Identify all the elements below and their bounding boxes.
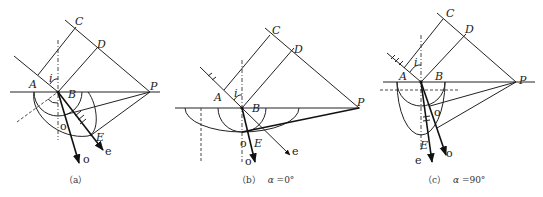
caption-c: （c） α =90° [423, 175, 485, 185]
label-e: E [95, 131, 104, 144]
label-e-ray: e [415, 154, 422, 167]
caption-a: （a） [64, 175, 87, 185]
ray-ac [38, 27, 76, 75]
caption-c-var: α [453, 175, 459, 185]
label-o-ray: o [83, 153, 90, 166]
svg-text:（b） α =0°: （b） α =0° [237, 175, 294, 185]
label-i: i [49, 72, 53, 85]
point-b [56, 90, 59, 93]
label-e-ray: e [105, 145, 112, 158]
tick-mark [208, 73, 212, 76]
huygens-construction-figure: A B C D E P i o o e （a） [0, 0, 543, 197]
svg-text:（c） α =90°: （c） α =90° [423, 175, 485, 185]
label-a: A [213, 91, 222, 104]
panel-b: A B C D E P i o o e （b） α =0° [175, 24, 365, 185]
o-ray [242, 108, 255, 162]
caption-b-value: =0° [277, 175, 295, 185]
tick-mark [78, 115, 84, 120]
panel-c: A B C D E P i o o e （c） α =90° [380, 7, 535, 185]
label-d: D [96, 38, 106, 51]
label-o-point: o [240, 137, 247, 150]
caption-b: （b） α =0° [237, 175, 294, 185]
ray-bd [58, 48, 97, 92]
label-o-point: o [434, 106, 441, 119]
ray-bd [421, 34, 466, 82]
label-e: E [419, 139, 428, 152]
label-c: C [446, 7, 455, 20]
label-i: i [414, 56, 418, 69]
caption-c-prefix: （c） [423, 175, 446, 185]
label-c: C [272, 24, 281, 37]
panel-a: A B C D E P i o o e （a） [10, 15, 160, 185]
caption-b-var: α [268, 175, 274, 185]
label-i: i [234, 87, 238, 100]
wavefront-cp [65, 20, 150, 92]
label-p: P [518, 74, 527, 87]
label-o-ray: o [245, 155, 252, 168]
label-d: D [293, 43, 303, 56]
tick-mark [423, 116, 430, 117]
label-b: B [434, 70, 443, 83]
label-d: D [464, 23, 474, 36]
label-b: B [251, 102, 260, 115]
label-e-ray: e [292, 145, 299, 158]
label-e: E [253, 137, 262, 150]
label-o-point: o [60, 120, 67, 133]
label-a: A [28, 78, 37, 91]
point-b [419, 80, 422, 83]
point-b [240, 106, 243, 109]
label-p: P [356, 96, 365, 109]
label-c: C [75, 15, 84, 28]
label-o-ray: o [446, 147, 453, 160]
e-tangent [437, 82, 516, 128]
tick-mark [212, 77, 216, 80]
angle-arc-lower [48, 99, 58, 103]
caption-c-value: =90° [462, 175, 486, 185]
e-tangent [90, 92, 150, 136]
ray-ac [404, 19, 443, 68]
wavefront-cp [265, 28, 359, 108]
wavefront-cp [437, 13, 516, 82]
caption-b-prefix: （b） [237, 175, 261, 185]
o-tangent [64, 92, 150, 115]
label-a: A [398, 70, 407, 83]
tick-mark [423, 120, 430, 121]
label-p: P [149, 80, 158, 93]
label-b: B [67, 88, 76, 101]
ray-ac [224, 35, 270, 90]
ray-bd [242, 48, 294, 108]
optic-axis [17, 92, 58, 122]
o-tangent [430, 82, 516, 106]
